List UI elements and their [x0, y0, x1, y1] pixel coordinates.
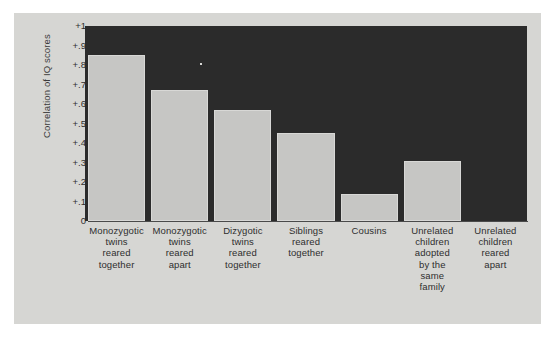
x-axis-tick-label-line: Cousins [338, 225, 401, 236]
x-axis-baseline [88, 221, 528, 222]
bar [404, 161, 461, 221]
y-axis-tick-label: +.3 [54, 158, 86, 168]
x-axis-tick-label-line: Unrelated [401, 225, 464, 236]
y-axis-tick-labels: +1+.9+.8+.7+.6+.5+.4+.3+.2+.10 [54, 13, 86, 324]
bar [151, 90, 208, 221]
x-axis-tick-label-line: Monozygotic [85, 225, 148, 236]
x-axis-tick-label: Unrelatedchildrenrearedapart [464, 225, 527, 270]
bar [341, 194, 398, 221]
y-axis-tick-label: +.5 [54, 119, 86, 129]
x-axis-tick-label: Dizygotictwinsrearedtogether [211, 225, 274, 270]
y-axis-title: Correlation of IQ scores [41, 6, 55, 166]
y-axis-tick-label: +1 [54, 21, 86, 31]
y-axis-tick-label: +.6 [54, 99, 86, 109]
x-axis-tick-label-line: family [401, 281, 464, 292]
x-axis-tick-label-line: twins [148, 236, 211, 247]
x-axis-tick-label-line: reared [85, 247, 148, 258]
chart-figure: Correlation of IQ scores +1+.9+.8+.7+.6+… [14, 13, 541, 324]
x-axis-tick-label-line: Unrelated [464, 225, 527, 236]
x-axis-tick-label-line: reared [211, 247, 274, 258]
x-axis-tick-label-line: children [401, 236, 464, 247]
x-axis-tick-label-line: reared [148, 247, 211, 258]
x-axis-tick-label-line: twins [85, 236, 148, 247]
x-axis-tick-label-line: together [274, 247, 337, 258]
y-axis-tick-label: +.2 [54, 177, 86, 187]
x-axis-tick-label-line: Siblings [274, 225, 337, 236]
x-axis-tick-label-line: Dizygotic [211, 225, 274, 236]
bar [277, 133, 334, 221]
x-axis-tick-label-line: reared [464, 247, 527, 258]
bar [88, 55, 145, 221]
x-axis-tick-label-line: apart [464, 259, 527, 270]
y-axis-tick-label: +.7 [54, 80, 86, 90]
y-axis-tick-label: +.4 [54, 138, 86, 148]
x-axis-tick-label-line: apart [148, 259, 211, 270]
x-axis-tick-label-line: adopted [401, 247, 464, 258]
bar-series [85, 26, 527, 221]
x-axis-tick-label-line: Monozygotic [148, 225, 211, 236]
x-axis-tick-label-line: twins [211, 236, 274, 247]
x-axis-tick-label: Monozygotictwinsrearedtogether [85, 225, 148, 270]
x-axis-tick-label: Unrelatedchildrenadoptedby thesamefamily [401, 225, 464, 292]
x-axis-tick-label-line: same [401, 270, 464, 281]
x-axis-tick-labels: MonozygotictwinsrearedtogetherMonozygoti… [85, 225, 527, 317]
y-axis-tick-label: +.9 [54, 41, 86, 51]
x-axis-tick-label: Siblingsrearedtogether [274, 225, 337, 259]
y-axis-tick-label: 0 [54, 216, 86, 226]
y-axis-tick-label: +.1 [54, 197, 86, 207]
x-axis-tick-label-line: together [211, 259, 274, 270]
x-axis-tick-label-line: reared [274, 236, 337, 247]
x-axis-tick-label-line: together [85, 259, 148, 270]
plot-area [85, 26, 527, 221]
y-axis-tick-label: +.8 [54, 60, 86, 70]
x-axis-tick-label-line: children [464, 236, 527, 247]
x-axis-tick-label: Monozygotictwinsrearedapart [148, 225, 211, 270]
bar [214, 110, 271, 221]
x-axis-tick-label: Cousins [338, 225, 401, 236]
x-axis-tick-label-line: by the [401, 259, 464, 270]
speck-artifact [200, 63, 202, 65]
